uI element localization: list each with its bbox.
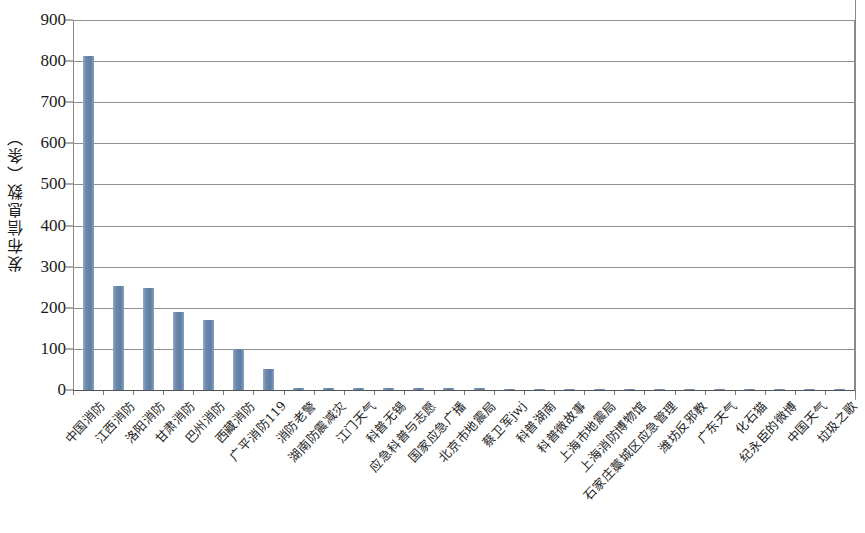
bar[interactable] [804,389,815,391]
x-tick-mark [464,391,465,395]
y-tick-label: 300 [26,257,66,277]
bar[interactable] [383,388,394,390]
bar[interactable] [353,388,364,390]
x-tick-mark [855,391,856,395]
y-tick-label: 400 [26,216,66,236]
y-tick-label: 900 [26,10,66,30]
bar[interactable] [744,389,755,391]
x-tick-mark [735,391,736,395]
bar[interactable] [684,389,695,391]
y-tick-mark [64,390,73,391]
bar[interactable] [594,389,605,391]
bar[interactable] [203,320,214,390]
x-tick-mark [284,391,285,395]
bar[interactable] [113,286,124,390]
x-tick-mark [644,391,645,395]
y-tick-mark [64,184,73,185]
bar[interactable] [654,389,665,391]
bar[interactable] [534,389,545,391]
x-tick-mark [494,391,495,395]
x-tick-mark [103,391,104,395]
x-tick-mark [253,391,254,395]
bar[interactable] [564,389,575,391]
x-tick-mark [825,391,826,395]
y-tick-mark [64,143,73,144]
y-tick-label: 100 [26,339,66,359]
y-tick-label: 700 [26,92,66,112]
bar[interactable] [413,388,424,390]
bar[interactable] [293,388,304,390]
x-tick-mark [404,391,405,395]
x-tick-mark [675,391,676,395]
bar[interactable] [474,388,485,390]
x-tick-mark [795,391,796,395]
x-tick-mark [554,391,555,395]
bar[interactable] [263,369,274,390]
x-tick-mark [524,391,525,395]
bar[interactable] [173,312,184,390]
x-tick-mark [133,391,134,395]
bars-layer [73,20,855,390]
x-tick-mark [73,391,74,395]
bar[interactable] [834,389,845,391]
bar[interactable] [624,389,635,391]
x-tick-mark [705,391,706,395]
x-tick-mark [193,391,194,395]
bar[interactable] [233,349,244,390]
x-tick-mark [374,391,375,395]
x-axis-labels: 中国消防江西消防洛阳消防甘肃消防巴州消防西藏消防广平消防119消防老警湖南防震减… [73,396,863,531]
x-tick-mark [614,391,615,395]
x-tick-mark [163,391,164,395]
x-tick-mark [314,391,315,395]
bar[interactable] [143,288,154,390]
y-tick-mark [64,102,73,103]
bar[interactable] [443,388,454,390]
x-tick-mark [584,391,585,395]
plot-right-border [855,0,856,400]
bar-chart: 发布信息数（条） 9008007006005004003002001000 中国… [0,0,865,533]
y-tick-mark [64,61,73,62]
x-tick-mark [344,391,345,395]
x-tick-mark [223,391,224,395]
y-tick-label: 800 [26,51,66,71]
y-axis-ticks: 9008007006005004003002001000 [0,0,66,400]
bar[interactable] [504,389,515,391]
y-tick-label: 500 [26,174,66,194]
y-tick-mark [64,307,73,308]
y-tick-mark [64,348,73,349]
bar[interactable] [714,389,725,391]
x-tick-mark [434,391,435,395]
y-tick-label: 0 [26,380,66,400]
y-tick-mark [64,20,73,21]
x-tick-mark [765,391,766,395]
bar[interactable] [774,389,785,391]
y-tick-mark [64,225,73,226]
bar[interactable] [83,56,94,390]
y-tick-mark [64,266,73,267]
y-tick-label: 600 [26,133,66,153]
y-tick-label: 200 [26,298,66,318]
bar[interactable] [323,388,334,390]
